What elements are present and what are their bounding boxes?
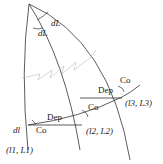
label-point1: (l1, L1): [6, 146, 33, 155]
label-point3: (l3, L3): [125, 99, 152, 108]
label-dep-upper: Dep: [98, 86, 113, 95]
label-point2: (l2, L2): [86, 127, 113, 136]
faint-scribble: [22, 50, 96, 80]
diagram-lines: [0, 0, 163, 164]
label-dl: dl: [13, 126, 20, 135]
label-dL-top: dL: [51, 19, 61, 28]
label-co-mid: Co: [88, 103, 99, 112]
rhumb-line: [28, 85, 140, 125]
label-dL-left: dL: [38, 29, 48, 38]
rhumb-line-diagram: dL dL Co Dep Co (l3, L3) Dep dl Co (l2, …: [0, 0, 163, 164]
label-co-top: Co: [120, 76, 131, 85]
label-co-lower: Co: [36, 126, 47, 135]
label-dep-lower: Dep: [47, 113, 62, 122]
